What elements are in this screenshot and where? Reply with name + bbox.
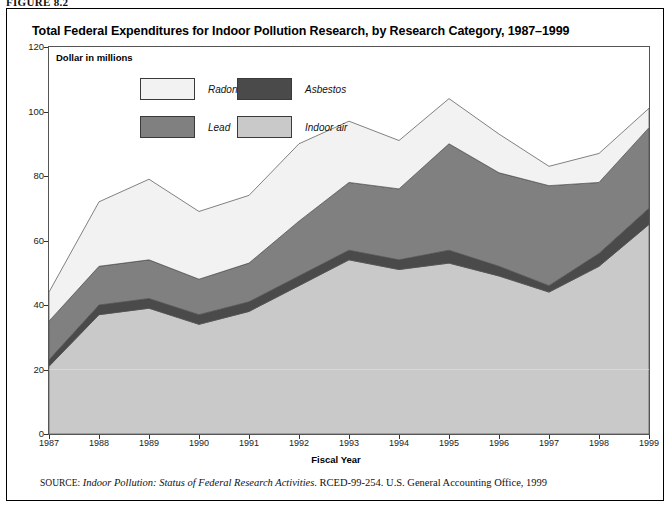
chart-title: Total Federal Expenditures for Indoor Po… <box>32 24 569 38</box>
legend-label-indoor-air: Indoor air <box>305 122 347 133</box>
source-document-title: Indoor Pollution: Status of Federal Rese… <box>83 477 315 488</box>
x-axis-tick-label: 1989 <box>129 438 169 448</box>
source-note: SOURCE: Indoor Pollution: Status of Fede… <box>40 477 547 488</box>
x-axis-tick-mark <box>199 435 200 439</box>
x-axis-tick-label: 1997 <box>529 438 569 448</box>
x-axis-tick-mark <box>99 435 100 439</box>
source-lead-label: SOURCE: <box>40 478 80 488</box>
y-axis-tick-label: 100 <box>4 106 44 117</box>
legend-item-lead: Lead <box>140 116 230 138</box>
x-axis-tick-mark <box>299 435 300 439</box>
y-axis-tick-label: 60 <box>4 235 44 246</box>
x-axis-title: Fiscal Year <box>0 454 672 465</box>
source-citation-rest: . RCED-99-254. U.S. General Accounting O… <box>314 477 547 488</box>
x-axis-tick-label: 1988 <box>79 438 119 448</box>
y-axis-tick-label: 80 <box>4 170 44 181</box>
stacked-area-chart <box>49 47 649 434</box>
x-axis-tick-label: 1996 <box>479 438 519 448</box>
legend-item-radon: Radon <box>140 78 237 100</box>
y-axis-tick-mark <box>44 176 48 177</box>
legend-item-indoor-air: Indoor air <box>237 116 347 138</box>
legend-label-asbestos: Asbestos <box>305 84 346 95</box>
legend-swatch-radon <box>140 78 195 100</box>
y-axis-tick-mark <box>44 305 48 306</box>
figure-number-label: FIGURE 8.2 <box>6 0 68 6</box>
y-axis-tick-label: 40 <box>4 299 44 310</box>
y-axis-tick-mark <box>44 434 48 435</box>
x-axis-tick-mark <box>249 435 250 439</box>
x-axis-tick-label: 1993 <box>329 438 369 448</box>
legend-label-lead: Lead <box>208 122 230 133</box>
x-axis-tick-mark <box>499 435 500 439</box>
y-axis-units-label: Dollar in millions <box>56 52 133 63</box>
legend-swatch-indoor-air <box>237 116 292 138</box>
x-axis-tick-label: 1987 <box>29 438 69 448</box>
x-axis-tick-mark <box>449 435 450 439</box>
y-axis-tick-label: 20 <box>4 364 44 375</box>
x-axis-tick-label: 1991 <box>229 438 269 448</box>
x-axis-tick-mark <box>599 435 600 439</box>
legend-swatch-lead <box>140 116 195 138</box>
figure-root: FIGURE 8.2 Total Federal Expenditures fo… <box>0 0 672 511</box>
plot-area <box>48 46 650 435</box>
x-axis-tick-mark <box>349 435 350 439</box>
x-axis-tick-label: 1992 <box>279 438 319 448</box>
y-axis-tick-mark <box>44 112 48 113</box>
x-axis-tick-mark <box>399 435 400 439</box>
y-axis-tick-mark <box>44 241 48 242</box>
x-axis-tick-label: 1995 <box>429 438 469 448</box>
x-axis-tick-label: 1990 <box>179 438 219 448</box>
x-axis-tick-label: 1998 <box>579 438 619 448</box>
y-axis-tick-label: 120 <box>4 41 44 52</box>
x-axis-tick-label: 1999 <box>629 438 669 448</box>
x-axis-tick-mark <box>549 435 550 439</box>
x-axis-tick-label: 1994 <box>379 438 419 448</box>
y-axis-tick-mark <box>44 370 48 371</box>
legend-item-asbestos: Asbestos <box>237 78 346 100</box>
legend-label-radon: Radon <box>208 84 237 95</box>
y-axis-tick-mark <box>44 47 48 48</box>
legend-swatch-asbestos <box>237 78 292 100</box>
x-axis-tick-mark <box>49 435 50 439</box>
x-axis-tick-mark <box>649 435 650 439</box>
x-axis-tick-mark <box>149 435 150 439</box>
